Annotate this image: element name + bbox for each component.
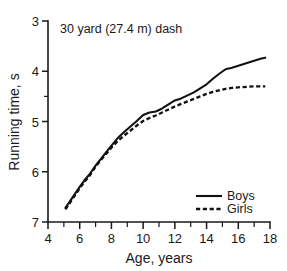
y-axis-tick-labels: 3 4 5 6 7 bbox=[32, 14, 39, 230]
x-tick-label-18: 18 bbox=[263, 231, 277, 246]
x-tick-label-10: 10 bbox=[136, 231, 150, 246]
legend-label-girls: Girls bbox=[227, 202, 253, 216]
y-tick-label-6: 6 bbox=[32, 165, 39, 180]
x-tick-label-14: 14 bbox=[199, 231, 213, 246]
x-axis-ticks bbox=[48, 222, 270, 229]
series-line-boys bbox=[65, 58, 265, 208]
y-tick-label-3: 3 bbox=[32, 14, 39, 29]
y-tick-label-5: 5 bbox=[32, 115, 39, 130]
line-chart: 3 4 5 6 7 4 6 8 bbox=[0, 0, 287, 271]
y-tick-label-7: 7 bbox=[32, 215, 39, 230]
chart-legend: Boys Girls bbox=[196, 189, 255, 216]
chart-figure: 3 4 5 6 7 4 6 8 bbox=[0, 0, 287, 271]
x-tick-label-16: 16 bbox=[231, 231, 245, 246]
chart-title: 30 yard (27.4 m) dash bbox=[60, 22, 182, 36]
x-tick-label-6: 6 bbox=[76, 231, 83, 246]
x-axis-tick-labels: 4 6 8 10 12 14 16 18 bbox=[44, 231, 277, 246]
x-tick-label-12: 12 bbox=[168, 231, 182, 246]
y-tick-label-4: 4 bbox=[32, 64, 39, 79]
legend-label-boys: Boys bbox=[227, 189, 255, 203]
x-tick-label-8: 8 bbox=[108, 231, 115, 246]
y-axis-ticks bbox=[42, 21, 48, 222]
x-tick-label-4: 4 bbox=[44, 231, 51, 246]
x-axis-title: Age, years bbox=[126, 250, 193, 266]
y-axis-title: Running time, s bbox=[6, 73, 22, 170]
